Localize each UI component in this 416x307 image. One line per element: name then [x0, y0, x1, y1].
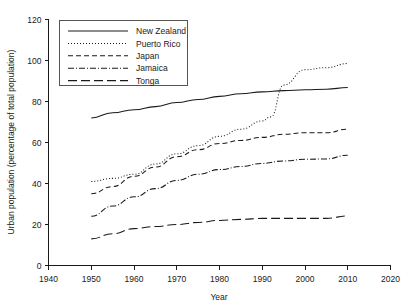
data-series-group: [91, 64, 348, 239]
line-chart: 020406080100120 194019501960197019801990…: [0, 0, 416, 307]
y-tick-label: 100: [27, 56, 41, 66]
legend-label-puerto-rico: Puerto Rico: [136, 39, 181, 49]
y-tick-label: 120: [27, 15, 41, 25]
y-tick-label: 20: [32, 220, 42, 230]
x-tick-label: 1940: [39, 274, 58, 284]
series-line-tonga: [91, 216, 348, 239]
chart-container: 020406080100120 194019501960197019801990…: [0, 0, 416, 307]
x-axis-ticks: 194019501960197019801990200020102020: [39, 266, 400, 284]
y-tick-label: 40: [32, 179, 42, 189]
legend-label-tonga: Tonga: [136, 76, 159, 86]
x-tick-label: 1960: [125, 274, 144, 284]
series-line-jamaica: [91, 155, 348, 216]
series-line-japan: [91, 129, 348, 194]
x-axis-title: Year: [210, 292, 227, 302]
legend-label-new-zealand: New Zealand: [136, 26, 186, 36]
y-tick-label: 0: [37, 261, 42, 271]
x-tick-label: 1990: [253, 274, 272, 284]
x-tick-label: 1980: [210, 274, 229, 284]
x-tick-label: 2000: [296, 274, 315, 284]
legend-label-jamaica: Jamaica: [136, 63, 168, 73]
y-axis-title: Urban population (percentage of total po…: [6, 49, 16, 234]
y-axis-ticks: 020406080100120: [27, 15, 48, 271]
legend-label-japan: Japan: [136, 51, 159, 61]
x-tick-label: 1970: [167, 274, 186, 284]
y-tick-label: 60: [32, 138, 42, 148]
series-line-new-zealand: [91, 88, 348, 118]
x-tick-label: 2020: [381, 274, 400, 284]
y-tick-label: 80: [32, 97, 42, 107]
x-tick-label: 1950: [82, 274, 101, 284]
x-tick-label: 2010: [338, 274, 357, 284]
